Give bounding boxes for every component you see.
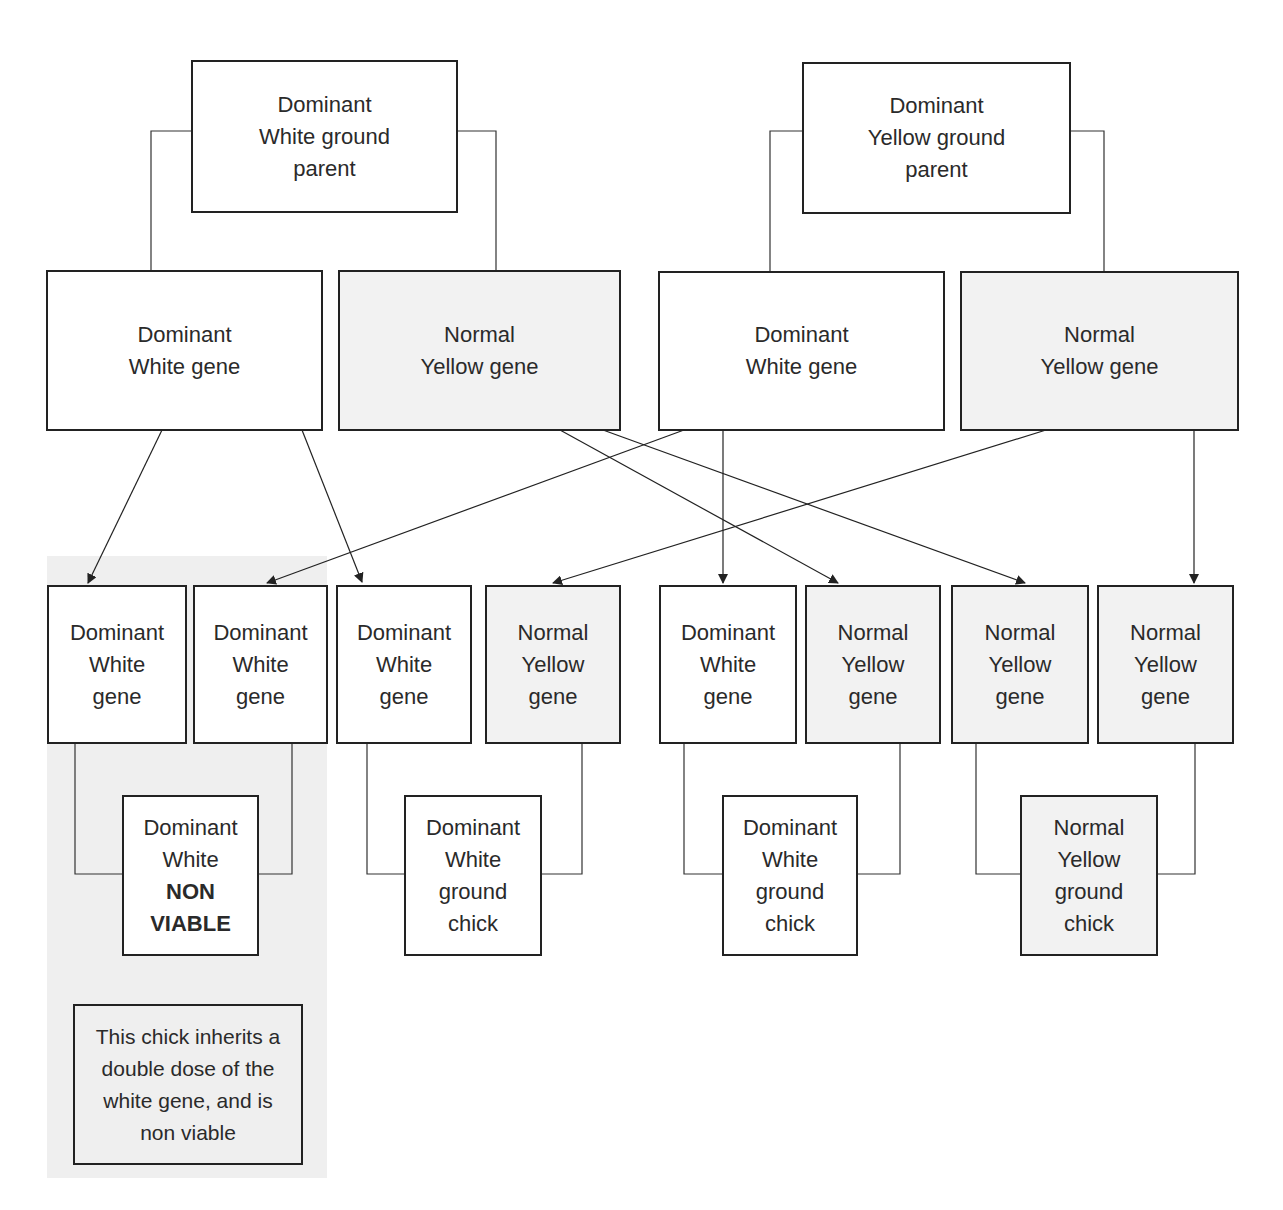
gene-right-white: Dominant White gene bbox=[658, 271, 945, 431]
offspring-gene-6-label: Normal Yellow gene bbox=[838, 617, 909, 713]
gene-right-yellow-label: Normal Yellow gene bbox=[1041, 319, 1159, 383]
chick-non-viable: Dominant White NON VIABLE bbox=[122, 795, 259, 956]
parent-yellow-ground: Dominant Yellow ground parent bbox=[802, 62, 1071, 214]
chick-white-ground-2: Dominant White ground chick bbox=[722, 795, 858, 956]
offspring-gene-6: Normal Yellow gene bbox=[805, 585, 941, 744]
offspring-gene-8: Normal Yellow gene bbox=[1097, 585, 1234, 744]
offspring-gene-2: Dominant White gene bbox=[193, 585, 328, 744]
offspring-gene-5-label: Dominant White gene bbox=[681, 617, 775, 713]
non-viable-warning: NON VIABLE bbox=[150, 876, 231, 940]
gene-left-yellow: Normal Yellow gene bbox=[338, 270, 621, 431]
offspring-gene-1: Dominant White gene bbox=[47, 585, 187, 744]
chick-non-viable-label: Dominant White bbox=[143, 812, 237, 876]
gene-left-white-label: Dominant White gene bbox=[129, 319, 240, 383]
offspring-gene-4-label: Normal Yellow gene bbox=[518, 617, 589, 713]
gene-right-yellow: Normal Yellow gene bbox=[960, 271, 1239, 431]
offspring-gene-3: Dominant White gene bbox=[336, 585, 472, 744]
gene-left-yellow-label: Normal Yellow gene bbox=[421, 319, 539, 383]
non-viable-note: This chick inherits a double dose of the… bbox=[73, 1004, 303, 1165]
chick-white-ground-1: Dominant White ground chick bbox=[404, 795, 542, 956]
offspring-gene-3-label: Dominant White gene bbox=[357, 617, 451, 713]
gene-right-white-label: Dominant White gene bbox=[746, 319, 857, 383]
offspring-gene-4: Normal Yellow gene bbox=[485, 585, 621, 744]
parent-white-ground-label: Dominant White ground parent bbox=[259, 89, 390, 185]
offspring-gene-2-label: Dominant White gene bbox=[213, 617, 307, 713]
chick-white-ground-2-label: Dominant White ground chick bbox=[743, 812, 837, 940]
chick-yellow-ground-label: Normal Yellow ground chick bbox=[1054, 812, 1125, 940]
parent-white-ground: Dominant White ground parent bbox=[191, 60, 458, 213]
chick-yellow-ground: Normal Yellow ground chick bbox=[1020, 795, 1158, 956]
offspring-gene-1-label: Dominant White gene bbox=[70, 617, 164, 713]
offspring-gene-7-label: Normal Yellow gene bbox=[985, 617, 1056, 713]
offspring-gene-5: Dominant White gene bbox=[659, 585, 797, 744]
parent-yellow-ground-label: Dominant Yellow ground parent bbox=[868, 90, 1005, 186]
non-viable-note-text: This chick inherits a double dose of the… bbox=[96, 1021, 280, 1149]
offspring-gene-7: Normal Yellow gene bbox=[951, 585, 1089, 744]
chick-white-ground-1-label: Dominant White ground chick bbox=[426, 812, 520, 940]
gene-left-white: Dominant White gene bbox=[46, 270, 323, 431]
offspring-gene-8-label: Normal Yellow gene bbox=[1130, 617, 1201, 713]
